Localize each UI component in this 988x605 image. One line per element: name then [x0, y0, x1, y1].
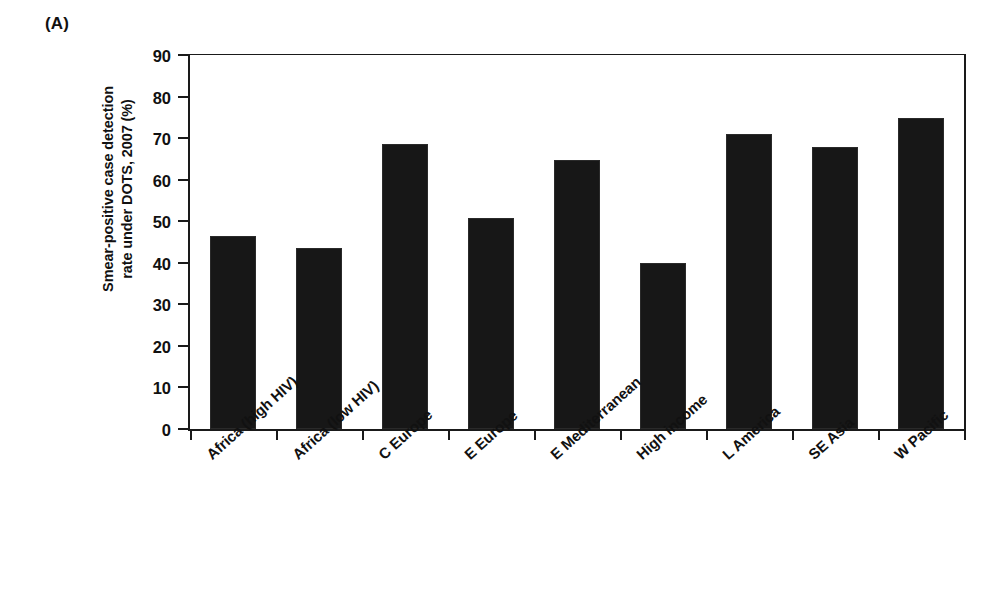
y-axis-tick-label: 40 [153, 256, 171, 273]
bar [726, 134, 773, 429]
x-axis-tick [448, 429, 450, 440]
y-axis-title-line-1: Smear-positive case detection [99, 86, 118, 292]
y-axis-tick-label: 10 [153, 380, 171, 397]
x-axis-tick [276, 429, 278, 440]
y-axis-tick: 20 [178, 345, 190, 347]
y-axis-tick-label: 50 [153, 214, 171, 231]
y-axis-tick: 70 [178, 137, 190, 139]
x-axis-tick [190, 429, 192, 440]
y-axis-tick: 10 [178, 386, 190, 388]
x-axis-tick [620, 429, 622, 440]
x-axis-tick [964, 429, 966, 440]
y-axis-tick-label: 90 [153, 48, 171, 65]
y-axis-tick-label: 0 [162, 422, 171, 439]
x-axis-tick [706, 429, 708, 440]
y-axis-tick: 30 [178, 303, 190, 305]
bar [382, 144, 429, 429]
bar [296, 248, 343, 429]
y-axis-title-line-2: rate under DOTS, 2007 (%) [118, 99, 137, 279]
y-axis-tick-label: 20 [153, 339, 171, 356]
y-axis-tick: 0 [178, 428, 190, 430]
y-axis-tick: 80 [178, 96, 190, 98]
figure-panel-a: (A) Smear-positive case detection rate u… [0, 0, 988, 605]
x-axis-tick [534, 429, 536, 440]
panel-label: (A) [45, 14, 69, 34]
y-axis-tick-label: 80 [153, 89, 171, 106]
y-axis-tick: 50 [178, 220, 190, 222]
y-axis-tick: 90 [178, 54, 190, 56]
bar [210, 236, 257, 429]
y-axis-tick: 60 [178, 179, 190, 181]
bar [468, 218, 515, 429]
bar [812, 147, 859, 429]
plot-area: 0102030405060708090 [188, 54, 966, 431]
bar-series [190, 55, 964, 429]
x-axis-tick [878, 429, 880, 440]
y-axis-tick: 40 [178, 262, 190, 264]
y-axis-tick-label: 30 [153, 297, 171, 314]
x-axis-tick [362, 429, 364, 440]
bar [898, 118, 945, 429]
y-axis-tick-label: 60 [153, 172, 171, 189]
y-axis-title: Smear-positive case detection rate under… [96, 0, 140, 389]
x-axis-tick [792, 429, 794, 440]
bar [640, 263, 687, 429]
bar [554, 160, 601, 429]
y-axis-tick-label: 70 [153, 131, 171, 148]
